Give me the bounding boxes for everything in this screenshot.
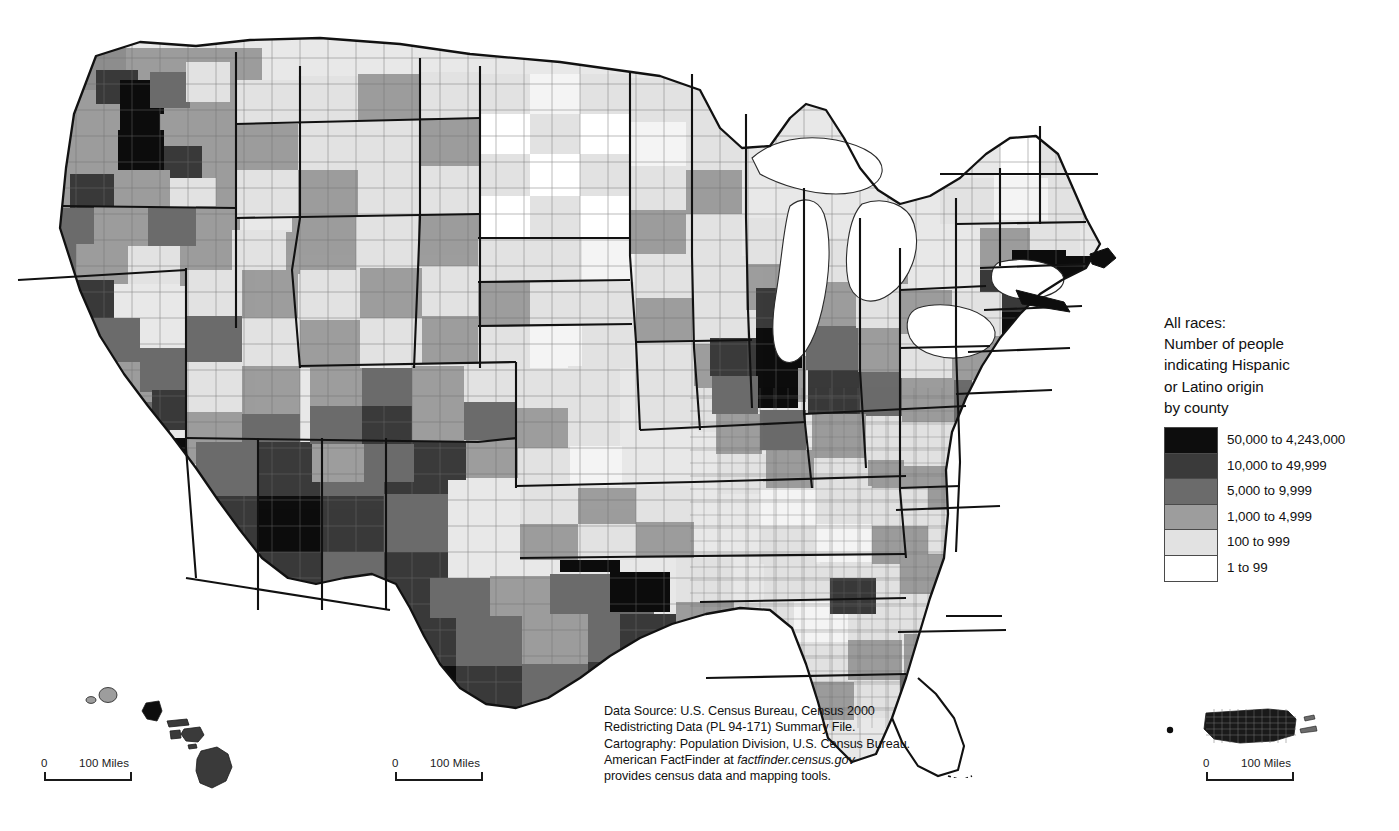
scale-bar-hawaii-tick-right [130, 772, 132, 781]
legend-label-3: 1,000 to 4,999 [1227, 507, 1396, 533]
scale-bar-hawaii-distance: 100 Miles [79, 757, 129, 769]
legend-swatch-4 [1165, 530, 1217, 556]
scale-bar-contiguous-tick-left [395, 772, 397, 781]
data-source-note: Data Source: U.S. Census Bureau, Census … [604, 703, 934, 784]
scale-bar-contiguous-distance: 100 Miles [430, 757, 480, 769]
legend-title-line-3: indicating Hispanic [1164, 354, 1396, 375]
legend-title: All races: Number of people indicating H… [1164, 312, 1396, 418]
scale-bar-hawaii-tick-left [44, 772, 46, 781]
legend-swatch-2 [1165, 479, 1217, 505]
legend-label-column: 50,000 to 4,243,000 10,000 to 49,999 5,0… [1227, 427, 1396, 583]
scale-bar-contiguous-rule [395, 772, 483, 781]
scale-bar-contiguous: 0 100 Miles [392, 757, 524, 781]
source-note-line-5: provides census data and mapping tools. [604, 768, 934, 784]
scale-bar-puerto-rico-tick-right [1292, 772, 1294, 781]
factfinder-url: factfinder.census.gov [737, 753, 855, 767]
map-page: 0 100 Miles 0 100 Miles 0 100 Miles Data… [0, 0, 1399, 831]
map-legend: All races: Number of people indicating H… [1164, 312, 1396, 583]
scale-bar-hawaii-labels: 0 100 Miles [41, 757, 173, 772]
scale-bar-puerto-rico-tick-left [1206, 772, 1208, 781]
scale-bar-puerto-rico-zero: 0 [1203, 757, 1210, 769]
source-note-line-4: American FactFinder at factfinder.census… [604, 752, 934, 768]
scale-bar-contiguous-labels: 0 100 Miles [392, 757, 524, 772]
scale-bar-hawaii: 0 100 Miles [41, 757, 173, 781]
factfinder-prefix: American FactFinder at [604, 753, 737, 767]
scale-bar-hawaii-rule [44, 772, 132, 781]
legend-label-2: 5,000 to 9,999 [1227, 481, 1396, 507]
legend-swatch-3 [1165, 505, 1217, 531]
scale-bar-puerto-rico-distance: 100 Miles [1241, 757, 1291, 769]
source-note-line-3: Cartography: Population Division, U.S. C… [604, 736, 934, 752]
scale-bar-puerto-rico: 0 100 Miles [1203, 757, 1335, 781]
scale-bar-contiguous-zero: 0 [392, 757, 399, 769]
legend-label-5: 1 to 99 [1227, 558, 1396, 584]
legend-label-0: 50,000 to 4,243,000 [1227, 430, 1396, 456]
legend-title-line-5: by county [1164, 397, 1396, 418]
legend-title-line-2: Number of people [1164, 333, 1396, 354]
legend-label-1: 10,000 to 49,999 [1227, 456, 1396, 482]
legend-swatch-0 [1165, 428, 1217, 454]
scale-bar-hawaii-zero: 0 [41, 757, 48, 769]
legend-title-line-4: or Latino origin [1164, 376, 1396, 397]
legend-swatch-1 [1165, 454, 1217, 480]
legend-body: 50,000 to 4,243,000 10,000 to 49,999 5,0… [1164, 427, 1396, 583]
legend-title-line-1: All races: [1164, 312, 1396, 333]
legend-label-4: 100 to 999 [1227, 532, 1396, 558]
scale-bar-puerto-rico-rule [1206, 772, 1294, 781]
scale-bar-contiguous-tick-right [481, 772, 483, 781]
source-note-line-1: Data Source: U.S. Census Bureau, Census … [604, 703, 934, 719]
legend-swatch-5 [1165, 556, 1217, 582]
region-colorado [310, 364, 518, 482]
source-note-line-2: Redistricting Data (PL 94-171) Summary F… [604, 719, 934, 735]
legend-swatch-column [1164, 427, 1218, 582]
scale-bar-puerto-rico-labels: 0 100 Miles [1203, 757, 1335, 772]
